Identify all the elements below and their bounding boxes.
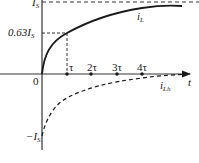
tick-label-tau: τ bbox=[69, 61, 74, 73]
tick-label-4tau: 4τ bbox=[137, 61, 148, 73]
il-curve-label: iL bbox=[137, 10, 144, 24]
tick-label-3tau: 3τ bbox=[112, 61, 123, 73]
is-label: IS bbox=[31, 0, 40, 10]
origin-label: 0 bbox=[33, 75, 39, 87]
063is-label: 0.63IS bbox=[8, 26, 35, 40]
tick-label-2tau: 2τ bbox=[87, 61, 98, 73]
t-axis-label: t bbox=[188, 76, 192, 88]
transient-diagram: τ 2τ 3τ 4τ 0 t IS 0.63IS −IS iL iLh bbox=[0, 0, 199, 163]
ilh-curve-label: iLh bbox=[160, 79, 171, 93]
neg-is-label: −IS bbox=[26, 130, 41, 144]
